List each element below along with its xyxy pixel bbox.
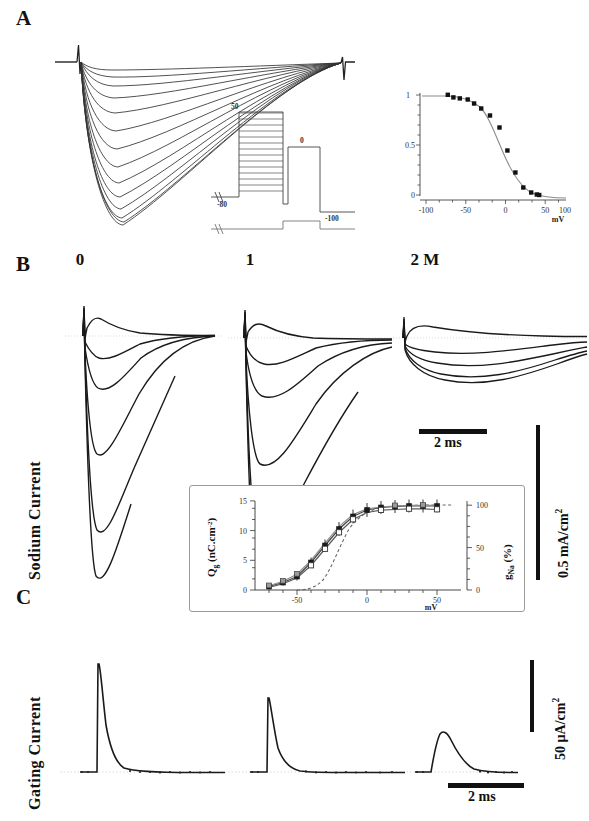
svg-text:50: 50 <box>476 544 484 553</box>
scalebar-time-panelB <box>419 429 487 434</box>
svg-text:100: 100 <box>476 501 488 510</box>
scale-label-current-panelC: 50 µA/cm2 <box>551 698 569 760</box>
panel-letter-a: A <box>16 6 31 31</box>
svg-text:0.5: 0.5 <box>405 141 415 150</box>
scalebar-time-panelC <box>448 783 524 788</box>
column-header-2m: 2 M <box>395 250 455 270</box>
svg-text:0: 0 <box>504 206 508 215</box>
svg-text:5: 5 <box>243 556 247 565</box>
panelC-gating-current-1M <box>250 698 405 774</box>
svg-text:-100: -100 <box>325 214 339 223</box>
svg-text:mV: mV <box>425 603 438 612</box>
panelC-gating-currents <box>60 630 520 790</box>
svg-text:0: 0 <box>243 586 247 595</box>
svg-text:-100: -100 <box>419 206 434 215</box>
svg-text:50: 50 <box>541 206 549 215</box>
scalebar-current-panelB <box>536 425 540 580</box>
svg-text:0: 0 <box>365 596 369 605</box>
scale-label-time-panelB: 2 ms <box>434 435 462 451</box>
svg-text:mV: mV <box>552 215 565 224</box>
scale-label-current-panelB-text: 0.5 mA/cm <box>556 513 571 578</box>
column-header-0m: 0 <box>60 250 100 270</box>
panelC-gating-current-2M <box>415 732 518 774</box>
svg-text:100: 100 <box>559 206 571 215</box>
scale-label-current-panelB-exp: 2 <box>554 509 564 514</box>
svg-text:-50: -50 <box>460 206 471 215</box>
panelC-gating-current-0M <box>80 664 225 774</box>
svg-text:-80: -80 <box>217 200 227 209</box>
svg-text:0: 0 <box>476 586 480 595</box>
column-header-1m: 1 <box>230 250 270 270</box>
panel-letter-b: B <box>16 252 30 277</box>
svg-text:10: 10 <box>239 527 247 536</box>
panel-letter-c: C <box>16 585 31 610</box>
row-label-sodium-current: Sodium Current <box>26 461 44 580</box>
svg-text:1: 1 <box>406 91 410 100</box>
svg-text:15: 15 <box>239 497 247 506</box>
scale-label-current-panelB: 0.5 mA/cm2 <box>554 509 572 578</box>
svg-text:Qg (nC.cm-2): Qg (nC.cm-2) <box>205 518 220 577</box>
panelA-inactivation-curve: 1 0.5 0 -100 -50 0 50 100 mV <box>398 88 573 223</box>
svg-text:gNa (%): gNa (%) <box>501 544 516 580</box>
scale-label-current-panelC-exp: 2 <box>551 698 561 703</box>
scalebar-current-panelC <box>530 660 534 732</box>
panelB-sodium-currents-2M <box>393 300 589 430</box>
svg-text:50: 50 <box>231 102 239 111</box>
svg-text:0: 0 <box>300 136 304 145</box>
scale-label-current-panelC-text: 50 µA/cm <box>553 703 568 760</box>
svg-text:0: 0 <box>411 191 415 200</box>
scale-label-time-panelC: 2 ms <box>468 789 496 805</box>
panelB-inset-Qg-gNa: 0 5 10 15 Qg (nC.cm-2) -50 0 50 mV <box>189 485 523 610</box>
svg-text:-50: -50 <box>292 596 303 605</box>
panelA-voltage-protocol: 50 -80 0 -100 <box>195 100 375 235</box>
row-label-gating-current: Gating Current <box>26 696 44 810</box>
